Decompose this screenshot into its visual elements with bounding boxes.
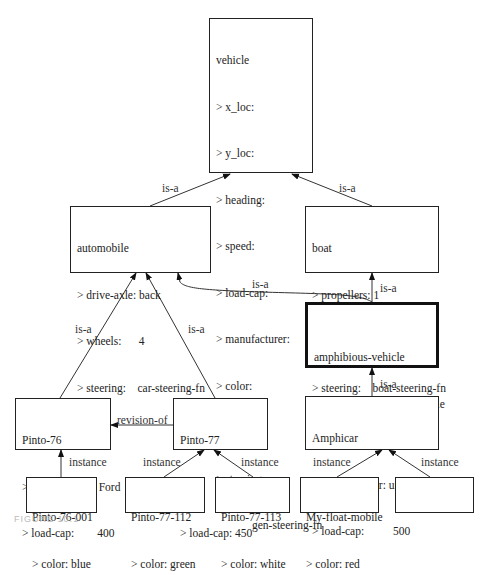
label-pinto76-automobile: is-a (75, 323, 92, 335)
frame-title: Amphicar (312, 431, 432, 447)
label-pinto77113-pinto77: instance (241, 456, 279, 468)
label-amphibious-automobile: is-a (252, 278, 269, 290)
slot: > color: green (131, 557, 199, 573)
slot: > y_loc: (216, 146, 306, 162)
frame-amphibious-vehicle[interactable]: amphibious-vehicle > lock-doors: lock-do… (305, 302, 439, 368)
slot: > color: red (306, 557, 373, 573)
frame-pinto-76[interactable]: Pinto-76 > manufacturer: Ford > load-cap… (15, 398, 111, 450)
figure-caption: FIGURE 10.1 (14, 514, 79, 524)
label-automobile-vehicle: is-a (162, 182, 179, 194)
frame-title: boat (312, 241, 432, 257)
slot: > wheels: 4 (77, 334, 204, 350)
label-boat-vehicle: is-a (339, 182, 356, 194)
label-pinto77112-pinto77: instance (143, 456, 181, 468)
slot: > x_loc: (216, 100, 306, 116)
label-amphicar-amphibious: is-a (380, 378, 397, 390)
slot: > color: white (221, 557, 284, 573)
frame-amphicar[interactable]: Amphicar > manufacturer: unknown > load-… (305, 396, 439, 450)
label-pinto76001-pinto76: instance (69, 456, 107, 468)
frame-title: Pinto-76 (22, 433, 104, 449)
frame-pinto-77-112[interactable]: Pinto-77-112 > color: green (125, 477, 205, 513)
frame-title: Pinto-77 (180, 433, 261, 449)
frame-vehicle[interactable]: vehicle > x_loc: > y_loc: > heading: > s… (209, 18, 313, 173)
slot: > steering: car-steering-fn (77, 381, 204, 397)
slot: > propellers: 1 (312, 288, 432, 304)
frame-my-float-mobile[interactable]: My-float-mobile > color: red (300, 477, 379, 513)
slot: > manufacturer: (216, 332, 306, 348)
frame-pinto-76-001[interactable]: Pinto-76-001 > color: blue (26, 477, 97, 513)
label-empty-amphicar: instance (421, 456, 459, 468)
label-amphibious-boat: is-a (380, 282, 397, 294)
frame-title: Pinto-77-113 (221, 510, 284, 526)
frame-empty-instance[interactable] (395, 477, 474, 513)
slot: > color: (216, 379, 306, 395)
label-myfloat-amphicar: instance (313, 456, 351, 468)
slot: > heading: (216, 193, 306, 209)
slot: > color: blue (32, 557, 91, 573)
frame-title: amphibious-vehicle (314, 350, 430, 366)
frame-pinto-77[interactable]: Pinto-77 > load-cap: 450 (173, 398, 268, 450)
frame-title: automobile (77, 241, 204, 257)
frame-title: My-float-mobile (306, 510, 373, 526)
label-pinto77-automobile: is-a (188, 323, 205, 335)
slot: > drive-axle: back (77, 288, 204, 304)
frame-title: Pinto-77-112 (131, 510, 199, 526)
frame-automobile[interactable]: automobile > drive-axle: back > wheels: … (70, 206, 211, 273)
frame-title: vehicle (216, 53, 306, 69)
slot: > speed: (216, 239, 306, 255)
frame-boat[interactable]: boat > propellers: 1 > hulls: 1 > steeri… (305, 206, 439, 273)
frame-pinto-77-113[interactable]: Pinto-77-113 > color: white (215, 477, 290, 513)
label-pinto77-pinto76: revision-of (117, 414, 167, 426)
